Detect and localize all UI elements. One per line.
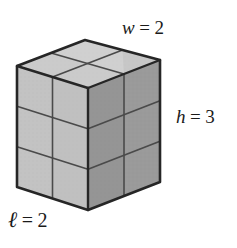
figure-container: w=2 h=3 ℓ=2 [0, 0, 237, 248]
left-face [17, 66, 88, 210]
label-width-equals: = [139, 17, 150, 38]
label-width: w=2 [122, 18, 164, 37]
label-length-variable: ℓ [8, 207, 18, 232]
label-height-variable: h [176, 106, 186, 127]
label-length-equals: = [22, 209, 34, 231]
label-length: ℓ=2 [8, 209, 48, 231]
label-height: h=3 [176, 107, 215, 126]
label-width-variable: w [122, 17, 135, 38]
label-width-value: 2 [154, 17, 164, 38]
label-height-value: 3 [205, 106, 215, 127]
label-length-value: 2 [37, 209, 48, 231]
label-height-equals: = [190, 106, 201, 127]
